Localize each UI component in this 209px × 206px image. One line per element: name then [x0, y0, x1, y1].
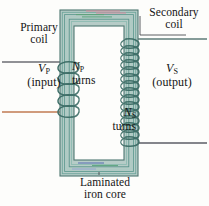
core-color-accents [72, 11, 126, 169]
iron-core-label: Laminated iron core [56, 176, 154, 200]
ns-word: turns [113, 120, 137, 132]
primary-coil-label-line2: coil [30, 33, 48, 45]
np-word: turns [72, 74, 96, 86]
secondary-voltage-label: VS (output) [143, 62, 201, 89]
ns-symbol: N [124, 106, 132, 118]
core-window-edge [74, 26, 124, 160]
primary-coil-label: Primary coil [8, 21, 70, 45]
transformer-diagram: Primary coil Secondary coil VP (input) V… [0, 0, 209, 206]
np-subscript: P [80, 65, 84, 74]
secondary-coil-label: Secondary coil [141, 6, 207, 30]
np-symbol: N [72, 60, 80, 72]
primary-turns-label: NP turns [72, 60, 112, 86]
secondary-coil-label-line2: coil [165, 18, 183, 30]
primary-coil-label-line1: Primary [20, 21, 58, 33]
vs-note: (output) [152, 75, 191, 89]
vp-note: (input) [27, 75, 60, 89]
label-leader-lines [99, 16, 186, 175]
secondary-turns-label: NS turns [96, 106, 136, 132]
secondary-lead-wires [131, 39, 207, 143]
laminated-iron-core [60, 10, 138, 176]
primary-voltage-label: VP (input) [17, 62, 71, 89]
ns-subscript: S [132, 111, 136, 120]
secondary-coil-label-line1: Secondary [149, 6, 198, 18]
core-label-line2: iron core [84, 188, 126, 200]
core-label-line1: Laminated [80, 176, 130, 188]
